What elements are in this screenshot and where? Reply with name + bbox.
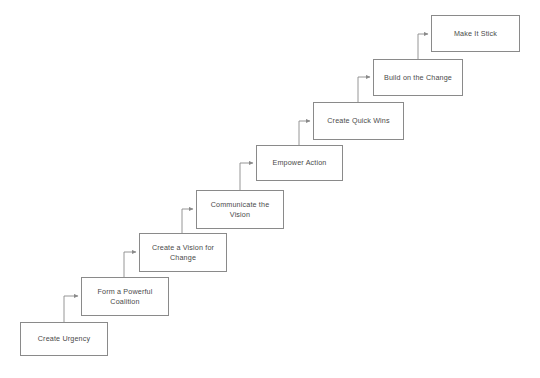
connector-step-4-to-step-5: [240, 163, 253, 190]
node-step-4[interactable]: Communicate the Vision: [196, 190, 284, 229]
connector-step-2-to-step-3: [124, 252, 136, 277]
connector-step-3-to-step-4: [182, 209, 193, 233]
diagram-canvas: Create Urgency Form a Powerful Coalition…: [0, 0, 540, 378]
node-step-1[interactable]: Create Urgency: [20, 322, 108, 356]
node-step-2[interactable]: Form a Powerful Coalition: [81, 277, 169, 316]
connector-step-5-to-step-6: [299, 121, 310, 145]
node-step-6[interactable]: Create Quick Wins: [313, 102, 404, 140]
connector-step-7-to-step-8: [418, 34, 428, 59]
connector-step-1-to-step-2: [64, 296, 78, 322]
node-step-5[interactable]: Empower Action: [256, 145, 343, 181]
node-step-7[interactable]: Build on the Change: [373, 59, 463, 96]
connector-step-6-to-step-7: [358, 77, 370, 102]
node-step-8[interactable]: Make It Stick: [431, 15, 520, 52]
node-step-3[interactable]: Create a Vision for Change: [139, 233, 227, 272]
